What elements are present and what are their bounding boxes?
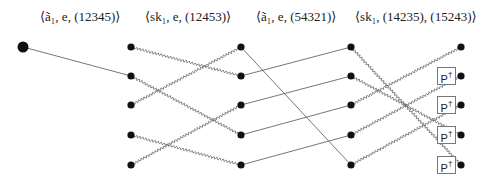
graph-svg: [0, 0, 481, 183]
graph-node: [127, 43, 134, 50]
graph-node: [347, 131, 354, 138]
wavy-edge: [131, 105, 241, 165]
graph-node: [237, 161, 244, 168]
wavy-edge: [131, 47, 241, 76]
wavy-edge: [131, 76, 241, 135]
gate-label: P: [441, 73, 448, 85]
straight-edge: [241, 47, 351, 165]
p-dagger-gate: P†: [437, 156, 456, 174]
graph-node: [347, 161, 354, 168]
dagger-symbol: †: [448, 129, 452, 138]
graph-node: [347, 101, 354, 108]
wavy-edge: [131, 135, 241, 165]
graph-node: [457, 72, 464, 79]
graph-node: [127, 131, 134, 138]
graph-node: [127, 161, 134, 168]
graph-node: [457, 131, 464, 138]
graph-node: [237, 131, 244, 138]
gate-label: P: [441, 102, 448, 114]
graph-node: [237, 101, 244, 108]
diagram-canvas: ⟨ã₁, e, (12345)⟩ ⟨sk₁, e, (12453)⟩ ⟨ã₁, …: [0, 0, 481, 183]
p-dagger-gate: P†: [437, 126, 456, 144]
graph-node: [237, 72, 244, 79]
straight-edge: [241, 135, 351, 165]
straight-edge: [241, 76, 351, 105]
straight-edge: [241, 47, 351, 76]
graph-node: [457, 43, 464, 50]
graph-node: [127, 101, 134, 108]
p-dagger-gate: P†: [437, 96, 456, 114]
graph-node: [347, 43, 354, 50]
start-node: [18, 42, 29, 53]
gate-label: P: [441, 132, 448, 144]
wavy-edge: [131, 47, 241, 105]
straight-edge: [241, 105, 351, 135]
dagger-symbol: †: [448, 159, 452, 168]
graph-node: [347, 72, 354, 79]
straight-edge: [23, 47, 131, 76]
gate-label: P: [441, 162, 448, 174]
graph-node: [457, 101, 464, 108]
dagger-symbol: †: [448, 70, 452, 79]
dagger-symbol: †: [448, 99, 452, 108]
graph-node: [237, 43, 244, 50]
graph-node: [127, 72, 134, 79]
graph-node: [457, 161, 464, 168]
p-dagger-gate: P†: [437, 67, 456, 85]
